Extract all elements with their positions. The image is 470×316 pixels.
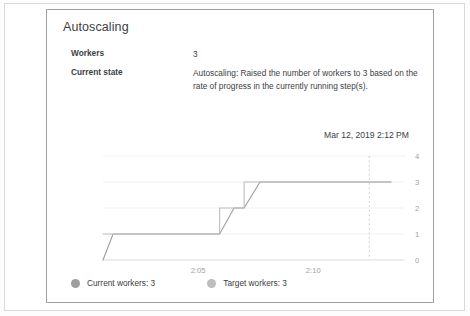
- chart-y-tick-labels: 01234: [415, 152, 419, 265]
- details-list: Workers 3 Current state Autoscaling: Rai…: [71, 48, 419, 99]
- svg-text:0: 0: [415, 256, 419, 265]
- chart-timestamp: Mar 12, 2019 2:12 PM: [324, 130, 409, 140]
- legend-item-target-workers[interactable]: Target workers: 3: [207, 278, 287, 288]
- screenshot-root: Autoscaling Workers 3 Current state Auto…: [0, 0, 470, 316]
- svg-text:3: 3: [415, 178, 419, 187]
- autoscaling-chart: 01234 2:052:10: [55, 148, 427, 276]
- detail-value: Autoscaling: Raised the number of worker…: [193, 67, 419, 92]
- legend-label: Target workers: 3: [223, 278, 287, 288]
- chart-series: [103, 182, 391, 260]
- svg-text:1: 1: [415, 230, 419, 239]
- detail-key: Workers: [71, 48, 193, 59]
- svg-text:2:05: 2:05: [191, 266, 206, 275]
- autoscaling-card: Autoscaling Workers 3 Current state Auto…: [46, 9, 434, 303]
- svg-text:2:10: 2:10: [306, 266, 321, 275]
- detail-row-current-state: Current state Autoscaling: Raised the nu…: [71, 67, 419, 92]
- chart-legend: Current workers: 3 Target workers: 3: [71, 278, 339, 288]
- chart-x-tick-labels: 2:052:10: [191, 266, 321, 275]
- detail-key: Current state: [71, 67, 193, 78]
- detail-row-workers: Workers 3: [71, 48, 419, 60]
- chart-svg: 01234 2:052:10: [55, 148, 427, 276]
- svg-text:2: 2: [415, 204, 419, 213]
- legend-label: Current workers: 3: [87, 278, 155, 288]
- legend-item-current-workers[interactable]: Current workers: 3: [71, 278, 155, 288]
- page-title: Autoscaling: [63, 20, 129, 34]
- chart-gridlines: [103, 156, 405, 260]
- svg-text:4: 4: [415, 152, 419, 161]
- detail-value: 3: [193, 48, 419, 60]
- legend-swatch-icon: [207, 279, 216, 288]
- legend-swatch-icon: [71, 279, 80, 288]
